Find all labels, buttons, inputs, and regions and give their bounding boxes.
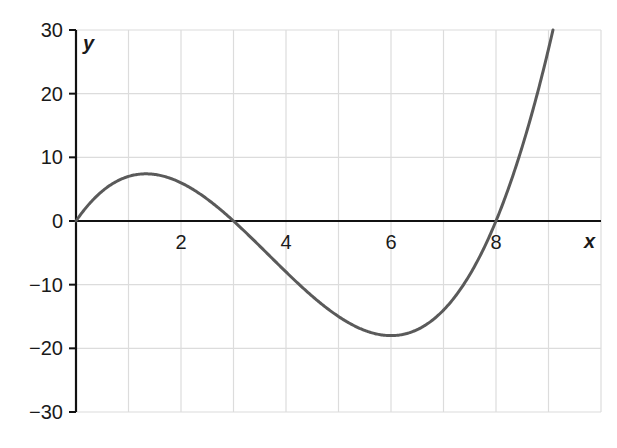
y-axis-label: y (82, 32, 95, 54)
x-tick-label: 8 (490, 231, 501, 253)
y-tick-label: 20 (41, 83, 63, 105)
y-tick-label: −30 (29, 401, 63, 423)
y-axis-ticks: 3020100−10−20−30 (29, 19, 76, 423)
y-tick-label: −20 (29, 337, 63, 359)
function-curve (76, 30, 553, 336)
y-tick-label: 30 (41, 19, 63, 41)
x-tick-label: 6 (385, 231, 396, 253)
chart-canvas: 3020100−10−20−30 2468 y x (0, 0, 617, 448)
y-tick-label: −10 (29, 274, 63, 296)
y-tick-label: 10 (41, 146, 63, 168)
x-tick-label: 4 (280, 231, 291, 253)
y-tick-label: 0 (52, 210, 63, 232)
x-tick-label: 2 (175, 231, 186, 253)
x-axis-label: x (583, 230, 596, 252)
